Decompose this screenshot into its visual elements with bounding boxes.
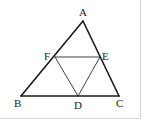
segment-fd — [55, 57, 78, 96]
label-b: B — [14, 97, 21, 109]
label-e: E — [102, 50, 109, 62]
label-d: D — [74, 99, 82, 111]
label-a: A — [79, 6, 87, 18]
triangle-diagram: A B C D E F — [0, 0, 145, 121]
side-ab — [21, 21, 83, 96]
side-ac — [83, 21, 119, 96]
label-f: F — [44, 50, 50, 62]
segment-ed — [78, 57, 100, 96]
label-c: C — [116, 97, 123, 109]
